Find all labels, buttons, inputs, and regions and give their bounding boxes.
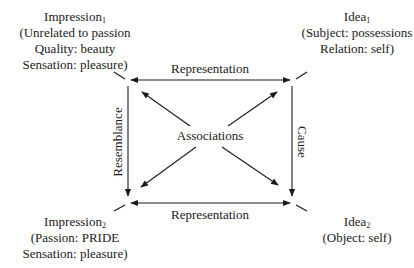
- label-top-representation: Representation: [150, 61, 270, 77]
- edge-assoc-to-bottom-right: [222, 147, 278, 185]
- corner-tick-top-right: [296, 72, 307, 79]
- label-left-resemblance: Resemblance: [110, 102, 126, 182]
- edge-assoc-to-top-right: [228, 92, 277, 126]
- label-right-cause: Cause: [294, 122, 310, 162]
- edge-assoc-to-bottom-left: [141, 147, 196, 187]
- corner-tick-bottom-left: [114, 205, 125, 211]
- label-center-associations: Associations: [165, 128, 255, 144]
- corner-tick-bottom-right: [296, 205, 307, 211]
- label-bottom-representation: Representation: [150, 207, 270, 223]
- edge-assoc-to-top-left: [142, 92, 190, 126]
- corner-tick-top-left: [114, 72, 125, 79]
